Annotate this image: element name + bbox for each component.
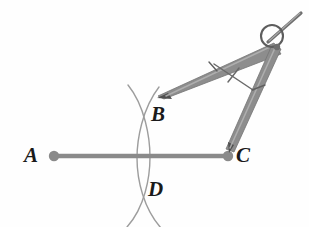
- point-label-A: A: [24, 145, 38, 166]
- endpoint-dot-A: [49, 151, 59, 161]
- endpoint-dot-C: [223, 151, 233, 161]
- pencil-leg-tick-icon: [209, 62, 217, 71]
- point-label-C: C: [236, 145, 250, 166]
- segment-AC: [49, 151, 233, 161]
- drafting-compass: [157, 13, 301, 153]
- geometry-figure-canvas: A B C D: [0, 0, 309, 227]
- compass-pivot-point: [274, 44, 280, 50]
- point-label-D: D: [148, 179, 163, 200]
- compass-handle-highlight: [269, 13, 300, 41]
- point-label-B: B: [151, 104, 165, 125]
